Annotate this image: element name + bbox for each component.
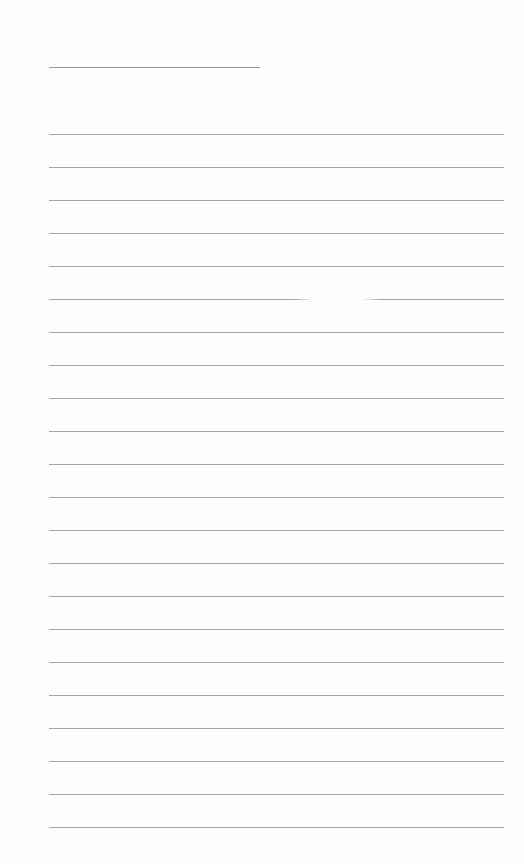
ruled-line <box>49 398 504 399</box>
ruled-line <box>49 794 504 795</box>
ruled-line <box>49 464 504 465</box>
ruled-line <box>49 563 504 564</box>
ruled-line <box>49 497 504 498</box>
lined-paper-page <box>0 0 524 864</box>
ruled-line <box>49 200 504 201</box>
ruled-line <box>49 662 504 663</box>
ruled-line <box>49 431 504 432</box>
ruled-line <box>49 596 504 597</box>
ruled-line <box>49 134 504 135</box>
ruled-line <box>49 827 504 828</box>
ruled-line <box>49 695 504 696</box>
ruled-line <box>49 365 504 366</box>
ruled-line <box>49 299 504 300</box>
ruled-line <box>49 728 504 729</box>
faded-segment <box>295 298 380 301</box>
ruled-line <box>49 233 504 234</box>
ruled-line <box>49 629 504 630</box>
ruled-line <box>49 761 504 762</box>
ruled-line <box>49 167 504 168</box>
ruled-line <box>49 332 504 333</box>
title-underline <box>49 67 260 68</box>
ruled-line <box>49 530 504 531</box>
ruled-line <box>49 266 504 267</box>
